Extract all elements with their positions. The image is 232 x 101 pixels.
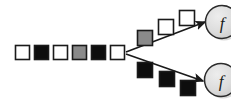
node-f-upper-circle <box>206 6 232 39</box>
main-square-4 <box>73 46 87 60</box>
main-square-6 <box>111 46 125 60</box>
node-f-upper: f <box>206 6 232 41</box>
node-f-lower: f <box>205 64 232 99</box>
main-sequence <box>16 46 125 60</box>
lower-branch-square-3 <box>181 81 196 96</box>
main-square-5 <box>92 46 106 60</box>
diagram-canvas: f f <box>0 0 231 101</box>
upper-branch-square-3 <box>180 11 195 26</box>
diagram-svg: f f <box>0 0 231 101</box>
lower-branch-square-1 <box>138 63 153 78</box>
upper-branch-square-2 <box>159 20 174 35</box>
lower-branch-square-2 <box>160 72 175 87</box>
main-square-3 <box>54 46 68 60</box>
main-square-2 <box>35 46 49 60</box>
upper-branch-squares <box>138 11 195 46</box>
upper-branch-square-1 <box>138 31 153 46</box>
main-square-1 <box>16 46 30 60</box>
